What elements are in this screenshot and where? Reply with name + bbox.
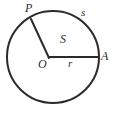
label-sector-area: S — [60, 33, 66, 45]
label-radius: r — [68, 58, 72, 69]
circle-sector-diagram — [0, 0, 117, 114]
label-point-a: A — [101, 50, 108, 62]
label-arc-length: s — [81, 7, 85, 18]
label-center-o: O — [38, 58, 47, 70]
label-point-p: P — [25, 2, 32, 14]
geometry-figure: P s S A O r — [0, 0, 117, 114]
radius-line-op — [31, 19, 49, 58]
